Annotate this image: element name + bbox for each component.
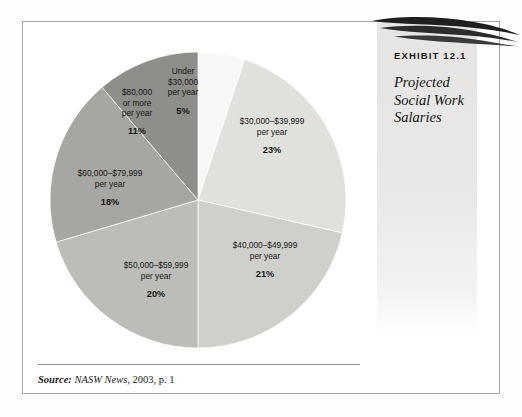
pie-label-50000-59999: $50,000–$59,999 per year 20%: [100, 260, 212, 300]
exhibit-title-line: Salaries: [394, 109, 480, 127]
pie-label-line: $30,000: [168, 77, 198, 87]
pie-label-line: or more: [123, 98, 152, 108]
pie-label-line: $40,000–$49,999: [233, 240, 298, 250]
exhibit-title-line: Social Work: [394, 92, 480, 110]
pie-label-line: per year: [141, 271, 171, 281]
pie-label-line: per year: [122, 108, 152, 118]
pie-label-line: $50,000–$59,999: [124, 260, 189, 270]
pie-label-line: per year: [95, 179, 125, 189]
exhibit-page: Under $30,000 per year 5% $30,000–$39,99…: [0, 0, 522, 417]
pie-label-line: per year: [168, 87, 198, 97]
exhibit-title: Projected Social Work Salaries: [394, 74, 480, 127]
pie-label-line: $30,000–$39,999: [240, 116, 305, 126]
swoosh-icon-svg: [370, 13, 522, 47]
pie-label-line: $60,000–$79,999: [78, 168, 143, 178]
source-lead: Source:: [38, 374, 72, 385]
pie-label-30000-39999: $30,000–$39,999 per year 23%: [217, 116, 327, 156]
swoosh-graphic-icon: [370, 13, 522, 47]
pie-value-label: 20%: [100, 289, 212, 300]
pie-label-40000-49999: $40,000–$49,999 per year 21%: [210, 240, 320, 280]
exhibit-number: EXHIBIT 12.1: [394, 50, 484, 61]
pie-label-60000-79999: $60,000–$79,999 per year 18%: [54, 168, 166, 208]
pie-label-line: $80,000: [122, 87, 152, 97]
pie-label-line: Under: [172, 66, 195, 76]
source-citation: Source: NASW News, 2003, p. 1: [38, 374, 175, 385]
pie-value-label: 21%: [210, 269, 320, 280]
exhibit-title-line: Projected: [394, 74, 480, 92]
pie-chart: Under $30,000 per year 5% $30,000–$39,99…: [42, 44, 354, 356]
exhibit-sidebar-panel: [377, 22, 477, 330]
pie-value-label: 23%: [217, 145, 327, 156]
pie-label-80000-or-more: $80,000 or more per year 11%: [102, 87, 172, 136]
source-rest: , 2003, p. 1: [127, 374, 174, 385]
source-publication: NASW News: [74, 374, 127, 385]
pie-value-label: 11%: [102, 126, 172, 137]
pie-value-label: 18%: [54, 197, 166, 208]
pie-label-line: per year: [250, 251, 280, 261]
pie-label-line: per year: [257, 127, 287, 137]
source-divider: [38, 364, 360, 365]
